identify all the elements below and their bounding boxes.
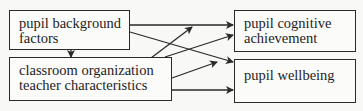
node-pupil-background: pupil background factors — [9, 10, 130, 50]
node-classroom-teacher: classroom organization teacher character… — [9, 57, 172, 101]
node-label-line: teacher characteristics — [19, 78, 171, 93]
node-label-line: pupil wellbeing — [244, 68, 355, 83]
edge-classroom-cognitive-a — [151, 27, 192, 58]
node-label-line: pupil cognitive — [244, 16, 355, 31]
node-label-line: pupil background — [19, 16, 129, 31]
node-label-line: achievement — [244, 31, 355, 46]
edge-classroom-wellbeing-a — [172, 62, 217, 78]
edge-classroom-cognitive-b — [165, 35, 233, 57]
node-pupil-cognitive: pupil cognitive achievement — [234, 10, 356, 52]
node-label-line: factors — [19, 31, 129, 46]
node-pupil-wellbeing: pupil wellbeing — [234, 59, 356, 103]
node-label-line: classroom organization — [19, 63, 171, 78]
